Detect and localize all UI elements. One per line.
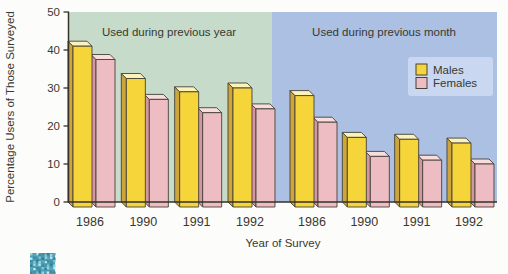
x-label-previous_year-1986: 1986 [76, 215, 104, 229]
bar-front-face [233, 88, 252, 207]
mosaic-speckle [50, 268, 52, 270]
legend-swatch-males [416, 64, 427, 75]
x-label-previous_year-1990: 1990 [129, 215, 157, 229]
bar-males-1991-previous_month [395, 134, 419, 207]
y-tick-label: 40 [47, 44, 60, 56]
mosaic-speckle [47, 258, 49, 260]
bar-front-face [149, 99, 168, 207]
y-tick-label: 10 [47, 158, 60, 170]
bar-males-1986-previous_year [68, 41, 92, 207]
mosaic-speckle [47, 253, 49, 255]
bar-front-face [203, 113, 222, 207]
y-tick-label: 30 [47, 82, 60, 94]
y-axis-title: Percentage Users of Those Surveyed [4, 11, 16, 203]
bar-front-face [423, 160, 442, 207]
mosaic-speckle [33, 257, 35, 259]
region-title-previous-year: Used during previous year [102, 26, 236, 38]
x-axis-title: Year of Survey [245, 237, 320, 249]
mosaic-speckle [53, 253, 55, 255]
mosaic-speckle [33, 264, 35, 266]
bar-front-face [256, 109, 275, 207]
mosaic-speckle [50, 257, 52, 259]
mosaic-speckle [30, 260, 32, 262]
mosaic-speckle [47, 260, 49, 262]
bar-side-face [121, 74, 126, 208]
x-label-previous_year-1992: 1992 [236, 215, 264, 229]
bar-front-face [400, 139, 419, 207]
bar-females-1990-previous_year [144, 94, 168, 207]
mosaic-speckle [42, 253, 44, 255]
bar-males-1992-previous_month [447, 138, 471, 207]
y-tick-label: 0 [54, 196, 60, 208]
bar-front-face [73, 46, 92, 207]
mosaic-speckle [42, 260, 44, 262]
mosaic-speckle [50, 271, 52, 273]
mosaic-speckle [33, 261, 35, 263]
bar-front-face [295, 96, 314, 207]
bar-front-face [370, 156, 389, 207]
bar-males-1992-previous_year [228, 83, 252, 207]
mosaic-speckle [38, 271, 40, 273]
bar-side-face [342, 132, 347, 207]
bar-side-face [447, 138, 452, 207]
bar-males-1991-previous_year [175, 87, 199, 207]
x-label-previous_month-1991: 1991 [403, 215, 431, 229]
mosaic-speckle [42, 267, 44, 269]
mosaic-speckle [38, 264, 40, 266]
mosaic-thumbnail-icon [30, 253, 56, 274]
legend: MalesFemales [408, 57, 493, 96]
x-label-previous_year-1991: 1991 [183, 215, 211, 229]
mosaic-speckle [53, 265, 55, 267]
mosaic-speckle [47, 267, 49, 269]
bar-front-face [452, 143, 471, 207]
mosaic-speckle [42, 258, 44, 260]
bar-females-1991-previous_year [198, 108, 222, 207]
x-label-previous_month-1992: 1992 [455, 215, 483, 229]
y-axis-ticks: 01020304050 [47, 6, 69, 208]
legend-swatch-females [416, 78, 427, 89]
mosaic-speckle [38, 257, 40, 259]
y-tick-label: 50 [47, 6, 60, 18]
mosaic-speckle [30, 253, 32, 255]
region-title-previous-month: Used during previous month [312, 26, 456, 38]
mosaic-speckle [38, 268, 40, 270]
mosaic-speckle [42, 265, 44, 267]
mosaic-speckle [38, 261, 40, 263]
bar-side-face [290, 91, 295, 207]
bar-front-face [347, 137, 366, 207]
mosaic-speckle [33, 271, 35, 273]
mosaic-speckle [30, 265, 32, 267]
bar-females-1986-previous_year [91, 55, 115, 208]
bar-males-1990-previous_month [342, 132, 366, 207]
bar-females-1992-previous_month [470, 159, 494, 207]
bar-females-1990-previous_month [365, 151, 389, 207]
bar-females-1992-previous_year [251, 104, 275, 207]
bar-chart: Used during previous year Used during pr… [0, 0, 508, 274]
mosaic-speckle [50, 254, 52, 256]
mosaic-speckle [53, 267, 55, 269]
legend-label-males: Males [433, 64, 464, 76]
bar-males-1986-previous_month [290, 91, 314, 207]
bar-side-face [395, 134, 400, 207]
mosaic-speckle [33, 268, 35, 270]
mosaic-speckle [30, 258, 32, 260]
bar-front-face [126, 79, 145, 208]
y-tick-label: 20 [47, 120, 60, 132]
mosaic-speckle [50, 264, 52, 266]
bar-front-face [96, 60, 115, 208]
x-axis-labels: 19861990199119921986199019911992 [76, 215, 483, 229]
mosaic-speckle [33, 254, 35, 256]
bar-front-face [475, 164, 494, 207]
mosaic-speckle [53, 260, 55, 262]
mosaic-speckle [53, 258, 55, 260]
x-label-previous_month-1990: 1990 [350, 215, 378, 229]
bar-males-1990-previous_year [121, 74, 145, 208]
bar-front-face [180, 92, 199, 207]
bar-front-face [318, 122, 337, 207]
bar-side-face [228, 83, 233, 207]
chart-figure: Used during previous year Used during pr… [0, 0, 508, 274]
x-label-previous_month-1986: 1986 [298, 215, 326, 229]
mosaic-speckle [38, 254, 40, 256]
mosaic-speckle [47, 265, 49, 267]
legend-label-females: Females [433, 77, 477, 89]
